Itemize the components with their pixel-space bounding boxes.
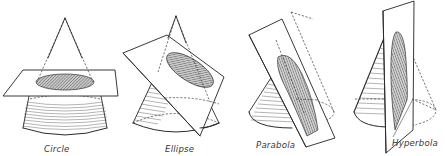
panel-ellipse: Ellipse <box>123 16 224 154</box>
base-chord-right <box>412 99 436 110</box>
conic-sections-diagram: Circle El <box>0 0 445 156</box>
apex-left <box>48 18 65 58</box>
label-parabola: Parabola <box>256 140 295 150</box>
panel-parabola: Parabola <box>249 12 335 150</box>
label-circle: Circle <box>44 144 70 154</box>
label-ellipse: Ellipse <box>165 144 194 154</box>
apex-right <box>176 16 186 43</box>
cone-shading <box>23 102 107 130</box>
cone-left-edge <box>23 96 29 128</box>
cone-base-front <box>23 128 107 135</box>
plane-back-top <box>291 12 313 19</box>
panel-hyperbola: Hyperbola <box>354 1 438 153</box>
cone-shading <box>355 48 384 114</box>
circle-section <box>36 74 94 90</box>
apex-right <box>65 18 82 58</box>
panel-circle: Circle <box>3 18 118 154</box>
cone-left-edge <box>354 38 384 112</box>
cone-right-edge <box>101 96 107 128</box>
apex-left <box>168 16 176 38</box>
label-hyperbola: Hyperbola <box>392 138 438 148</box>
cone-base-front <box>354 112 386 127</box>
